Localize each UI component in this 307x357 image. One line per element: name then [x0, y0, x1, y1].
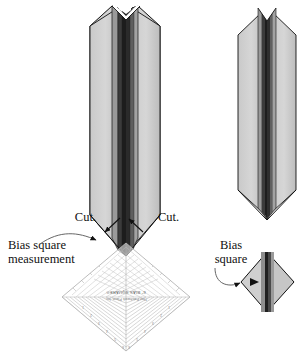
ruler-number: 4 [106, 329, 108, 333]
figure-canvas: 1 2 3 4 5 6 1 2 3 4 5 6 That Patchwork P… [0, 0, 307, 357]
ruler-number: 5 [114, 337, 116, 341]
bias-square-leader [215, 268, 240, 285]
bias-square-label-line2: square [215, 252, 248, 266]
ruler-number: 3 [98, 321, 100, 325]
cut-label-left: Cut. [75, 210, 96, 224]
long-bias-strip [90, 5, 160, 256]
ruler-number: 1 [168, 305, 170, 309]
bias-square-measurement-label-line2: measurement [8, 252, 75, 266]
ruler-number: 6 [122, 345, 124, 349]
short-bias-strip [238, 7, 296, 220]
ruler-gridlines [62, 243, 190, 351]
cut-bias-square-unit [241, 252, 294, 312]
ruler-number: 3 [152, 321, 154, 325]
ruler-number: 4 [144, 329, 146, 333]
small-diamond-seam-left [261, 252, 265, 312]
ruler-number: 5 [136, 337, 138, 341]
ruler-number: 2 [90, 313, 92, 317]
small-diamond-seam-light [271, 252, 274, 312]
ruler-brand-block: That Patchwork Place, Inc. 6" BIAS SQUAR… [105, 290, 147, 301]
ruler-number: 6 [128, 345, 130, 349]
bias-square-figure: 1 2 3 4 5 6 1 2 3 4 5 6 That Patchwork P… [0, 0, 307, 357]
cut-label-right: Cut. [158, 210, 179, 224]
ruler-brand-line1: 6" BIAS SQUARE® [106, 290, 146, 295]
ruler-brand-line2: That Patchwork Place, Inc. [105, 297, 147, 301]
callout-bias-square-measurement: Bias square measurement [8, 234, 96, 266]
bias-square-measurement-label-line1: Bias square [8, 238, 66, 252]
small-diamond-seam-right [268, 252, 271, 312]
ruler-number: 1 [82, 305, 84, 309]
short-strip-seam-dark-right [267, 15, 270, 219]
short-strip-seam-darkest [265, 15, 267, 219]
ruler-number: 2 [160, 313, 162, 317]
callout-bias-square: Bias square [215, 238, 248, 285]
long-strip-seam-darkest [122, 11, 126, 256]
bias-square-label-line1: Bias [220, 238, 242, 252]
small-diamond-seam-darkest [265, 252, 268, 312]
bias-square-ruler: 1 2 3 4 5 6 1 2 3 4 5 6 That Patchwork P… [62, 243, 190, 351]
